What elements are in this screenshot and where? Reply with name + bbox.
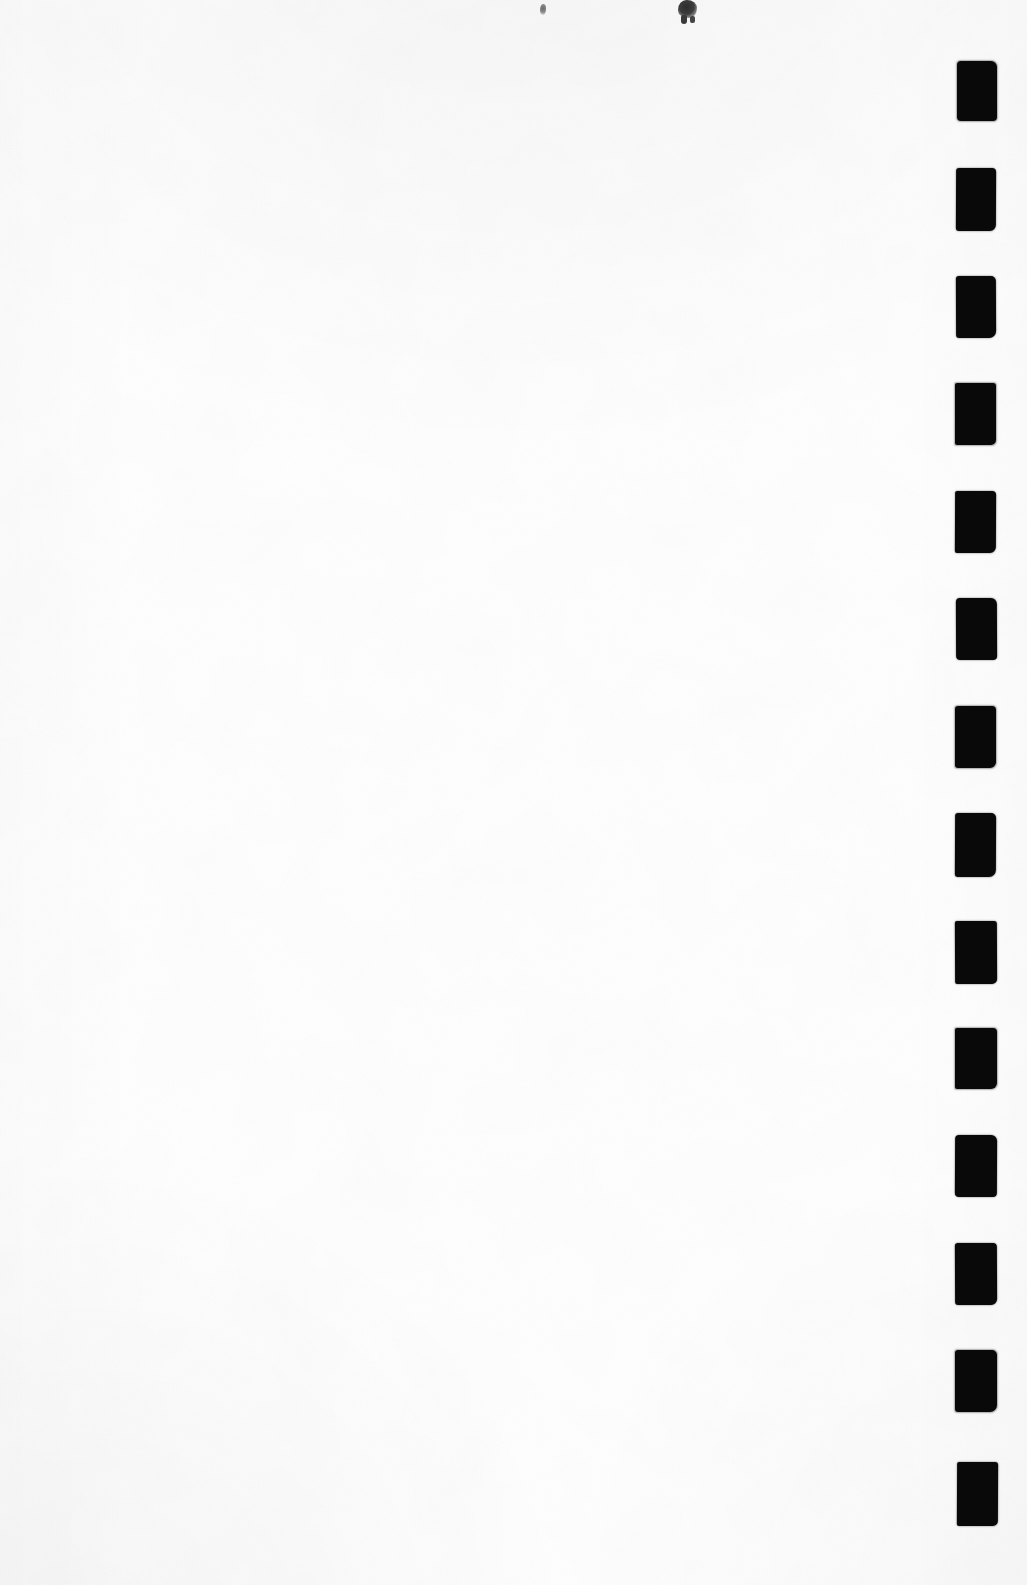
artifact-large bbox=[678, 0, 697, 18]
page-body-text bbox=[60, 60, 920, 1520]
scanned-page bbox=[0, 0, 1027, 1585]
artifact-small bbox=[540, 4, 546, 15]
